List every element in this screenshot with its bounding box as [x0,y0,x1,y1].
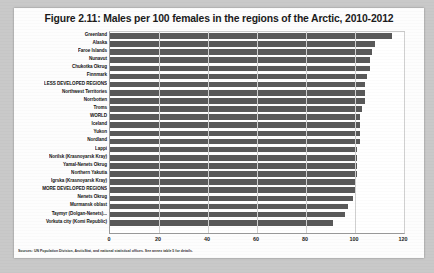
source-note: Sources: UN Population Division, ArcticS… [18,249,193,254]
category-label-row: Northern Yakutia [18,169,107,177]
gridline [404,32,405,233]
category-label-row: Yamal-Nenets Okrug [18,161,107,169]
category-label: Norilsk (Krasnoyarsk Kray) [49,154,107,159]
axis-tick-label: 20 [155,236,161,242]
gridline [159,32,160,233]
bar[interactable] [110,212,345,218]
category-label: Troms [93,106,107,111]
category-label: Murmansk oblast [70,203,107,208]
category-label: Alaska [92,41,107,46]
category-label: Vorkuta city (Komi Republic) [46,219,107,224]
screenshot-root: Figure 2.11: Males per 100 females in th… [0,0,434,273]
category-label: Nordland [87,138,107,143]
category-label-row: Troms [18,104,107,112]
category-label-row: Iceland [18,120,107,128]
category-label: Yukon [93,130,107,135]
category-axis-labels: GreenlandAlaskaFaroe IslandsNunavutChuko… [18,31,107,234]
bar[interactable] [110,74,367,80]
bar[interactable] [110,41,375,47]
category-label-row: LESS DEVELOPED REGIONS [18,80,107,88]
category-label: Taymyr (Dolgan-Nenets)... [52,211,107,216]
category-label-row: Taymyr (Dolgan-Nenets)... [18,210,107,218]
gridline [306,32,307,233]
category-label: Nunavut [89,57,107,62]
bar[interactable] [110,106,362,112]
category-label: Chukotka Okrug [72,65,107,70]
bar[interactable] [110,171,357,177]
plot-area [109,31,405,234]
category-label: Finnmark [87,73,107,78]
bar[interactable] [110,82,365,88]
category-label-row: Nenets Okrug [18,194,107,202]
category-label: Iceland [92,122,107,127]
category-label-row: Chukotka Okrug [18,64,107,72]
gridline [257,32,258,233]
axis-tick-label: 40 [204,236,210,242]
bar[interactable] [110,147,357,153]
gridline [355,32,356,233]
category-label: LESS DEVELOPED REGIONS [44,81,107,86]
category-label-row: Alaska [18,39,107,47]
category-label: Norrbotten [84,97,107,102]
bar[interactable] [110,122,360,128]
bar[interactable] [110,163,357,169]
bar[interactable] [110,66,370,72]
category-label-row: Murmansk oblast [18,202,107,210]
category-label-row: Vorkuta city (Komi Republic) [18,218,107,226]
bar[interactable] [110,220,333,226]
bar[interactable] [110,131,360,137]
category-label-row: WORLD [18,112,107,120]
category-label: WORLD [90,114,107,119]
axis-tick-label: 80 [302,236,308,242]
category-label: Northwest Territories [62,89,107,94]
value-axis-ticks: 020406080100120 [109,236,405,248]
axis-tick-label: 100 [350,236,359,242]
bar[interactable] [110,33,392,39]
chart-title: Figure 2.11: Males per 100 females in th… [14,13,424,24]
category-label-row: Yukon [18,129,107,137]
category-label: Faroe Islands [78,49,107,54]
category-label-row: Greenland [18,31,107,39]
bar[interactable] [110,57,370,63]
bar[interactable] [110,179,355,185]
bar[interactable] [110,155,357,161]
bar[interactable] [110,98,365,104]
category-label-row: Igrska (Krasnoyarsk Kray) [18,177,107,185]
category-label: Greenland [85,32,107,37]
bar[interactable] [110,196,353,202]
bar[interactable] [110,49,372,55]
bar[interactable] [110,139,360,145]
axis-tick-label: 120 [399,236,408,242]
bar[interactable] [110,90,365,96]
category-label: Nenets Okrug [77,195,107,200]
category-label: Yamal-Nenets Okrug [63,162,107,167]
category-label-row: Lappi [18,145,107,153]
category-label: Northern Yakutia [71,171,107,176]
category-label-row: Faroe Islands [18,47,107,55]
category-label: Igrska (Krasnoyarsk Kray) [51,179,107,184]
category-label-row: MORE DEVELOPED REGIONS [18,185,107,193]
category-label-row: Norrbotten [18,96,107,104]
gridline [208,32,209,233]
category-label-row: Nordland [18,137,107,145]
axis-tick-label: 60 [253,236,259,242]
category-label: Lappi [95,146,107,151]
axis-tick-label: 0 [108,236,111,242]
bar[interactable] [110,114,360,120]
category-label-row: Nunavut [18,55,107,63]
bar[interactable] [110,187,355,193]
category-label-row: Finnmark [18,72,107,80]
category-label: MORE DEVELOPED REGIONS [42,187,107,192]
bar[interactable] [110,204,348,210]
category-label-row: Norilsk (Krasnoyarsk Kray) [18,153,107,161]
category-label-row: Northwest Territories [18,88,107,96]
